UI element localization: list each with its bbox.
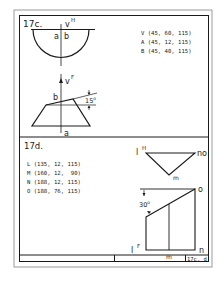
17d-front-view: 30o o n m l F: [131, 185, 204, 260]
vf-label: v: [65, 77, 70, 86]
angle-arrow-bottom-head: [88, 106, 91, 109]
point-b-top: b: [64, 32, 69, 41]
n-label: n: [199, 246, 204, 255]
problem-17c-label: 17c.: [23, 19, 42, 29]
angle-15-label: 15o: [85, 96, 96, 105]
problem-17c: 17c. v H a b V (45, 60, 115) A (45, 12, …: [23, 17, 192, 138]
coord-m: M (160, 12, 90): [27, 170, 81, 176]
problem-17d-label: 17d.: [24, 141, 43, 151]
no-label: no: [197, 149, 207, 158]
title-block: 17c, d: [20, 255, 209, 262]
coord-o: O (188, 76, 115): [27, 188, 81, 194]
angle-30-label: 30o: [139, 200, 150, 209]
arrow-head-vf: [59, 78, 63, 83]
lh-superscript: H: [142, 145, 146, 151]
point-a-front: a: [64, 129, 69, 138]
lf-label: l: [131, 246, 133, 255]
o-label: o: [198, 185, 203, 194]
point-a-top: a: [54, 32, 59, 41]
m-front-label: m: [166, 253, 172, 260]
lh-label: l: [136, 148, 138, 157]
front-view-shape: [146, 189, 195, 250]
vh-superscript: H: [71, 17, 75, 23]
m-top-label: m: [173, 174, 179, 181]
coord-n: N (188, 12, 115): [27, 179, 81, 185]
17c-front-view: v F 15o b a: [32, 74, 97, 138]
vh-label: v: [65, 20, 70, 29]
lf-superscript: F: [137, 243, 140, 249]
17c-coordinates: V (45, 60, 115) A (45, 12, 115) B (45, 4…: [141, 30, 192, 54]
top-view-triangle: [146, 153, 195, 175]
point-b-front: b: [53, 93, 58, 102]
angle-30-arrow-bottom-head: [147, 211, 151, 214]
sheet-reference: 17c, d: [187, 256, 207, 262]
coord-b: B (45, 40, 115): [141, 48, 192, 54]
coord-v: V (45, 60, 115): [141, 30, 192, 36]
coord-a: A (45, 12, 115): [141, 39, 192, 45]
17d-top-view: l H no m: [136, 145, 207, 181]
17d-coordinates: L (135, 12, 115) M (160, 12, 90) N (188,…: [27, 161, 81, 194]
drawing-sheet: 17c. v H a b V (45, 60, 115) A (45, 12, …: [0, 0, 224, 282]
vf-superscript: F: [71, 74, 74, 80]
problem-17d: 17d. L (135, 12, 115) M (160, 12, 90) N …: [24, 141, 207, 260]
angle-30-arrow-top-head: [143, 193, 146, 196]
coord-l: L (135, 12, 115): [27, 161, 81, 167]
